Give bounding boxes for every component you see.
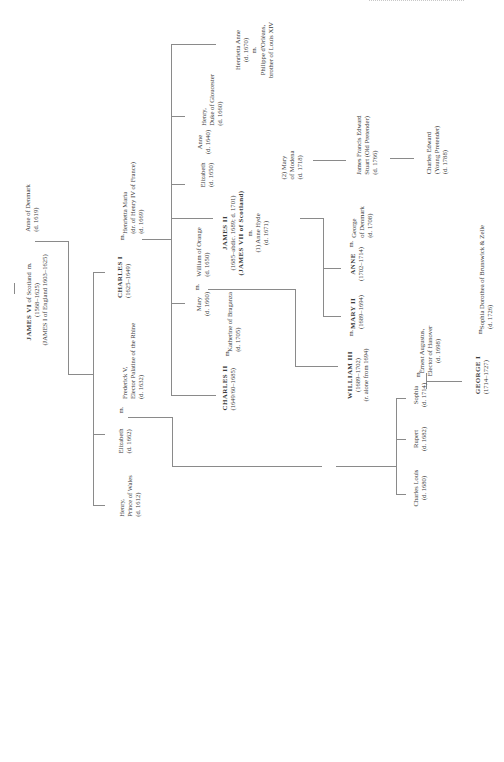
connector — [295, 289, 296, 366]
connector — [295, 366, 338, 367]
connector — [171, 44, 172, 396]
marriage-symbol: m. — [347, 330, 355, 337]
connector — [396, 494, 406, 495]
person-henry-duke-of-gloucester: Henry, Duke of Gloucester (d. 1660) — [200, 74, 225, 126]
person-james-ii: JAMES II (1685–abdic. 1689; d. 1701) (JA… — [221, 190, 270, 275]
marriage-symbol: m. — [25, 263, 33, 270]
connector — [323, 316, 341, 317]
person-mary-ii: MARY II (1689–1694) — [349, 295, 365, 329]
person-william-iii: WILLIAM III (1689–1702) (r. alone from 1… — [346, 348, 371, 401]
connector — [128, 417, 172, 418]
connector — [93, 272, 105, 273]
person-anne-of-denmark: Anne of Denmark (d. 1619) — [24, 184, 40, 232]
connector — [323, 268, 341, 269]
person-mary-1660: Mary (d. 1660) — [195, 292, 211, 316]
connector — [171, 395, 216, 396]
person-sophia-dorothea: Sophia Dorothea of Brunswick & Zelle (d.… — [478, 225, 494, 329]
person-james-vi: JAMES VI of Scotlandm. (1568–1625) (JAME… — [25, 254, 50, 345]
person-katherine-of-braganza: Katherine of Braganza (d. 1705) — [226, 292, 242, 352]
cropped-header-remnant — [369, 0, 464, 4]
person-elizabeth-1650: Elizabeth (d. 1650) — [199, 163, 215, 188]
person-philippe-d-orleans: Philippe d'Orléans, — [259, 22, 267, 78]
person-sophia: Sophia (d. 1714) — [412, 383, 428, 407]
person-anne-1640: Anne (d. 1640) — [196, 130, 212, 154]
connector — [93, 505, 105, 506]
person-charles-ii: CHARLES II (1649/60–1685) — [221, 365, 237, 410]
connector — [172, 417, 173, 466]
person-george-of-denmark: George of Denmark (d. 1708) — [350, 206, 375, 238]
connector — [68, 374, 93, 375]
connector — [426, 381, 462, 382]
person-henrietta-anne: Henrietta Anne (d. 1670) m. Philippe d'O… — [234, 22, 275, 78]
connector — [300, 218, 324, 219]
connector — [142, 239, 172, 240]
connector — [68, 241, 69, 374]
marriage-symbol: m. — [118, 234, 126, 241]
connector — [390, 158, 414, 159]
connector — [171, 44, 216, 45]
person-james-francis-edward: James Francis Edward Stuart (Old Pretend… — [355, 115, 380, 174]
person-henrietta-maria: Henrietta Maria (dr. of Henry IV of Fran… — [121, 162, 146, 234]
marriage-symbol: m. — [117, 407, 125, 414]
connector — [396, 398, 397, 494]
connector — [208, 289, 295, 290]
marriage-symbol: m. — [193, 284, 201, 291]
person-charles-edward: Charles Edward (Young Pretender) (d. 178… — [425, 126, 450, 175]
person-charles-louis: Charles Louis (d. 1680) — [412, 470, 428, 507]
connector — [93, 272, 94, 505]
marriage-symbol: m. — [251, 22, 259, 78]
connector — [14, 283, 15, 294]
person-henry-prince-of-wales: Henry, Prince of Wales (d. 1612) — [118, 475, 143, 516]
person-anne-hyde: (1) Anne Hyde — [254, 190, 262, 275]
connector — [35, 241, 69, 242]
person-frederick-v: Frederick V, Elector Palatine of the Rhi… — [121, 323, 146, 399]
person-anne-queen: ANNE (1702–1714) — [349, 247, 365, 281]
person-ernest-augustus: Ernest Augustus, Elector of Hanover (d. … — [418, 326, 443, 377]
connector — [313, 160, 346, 161]
connector — [171, 303, 185, 304]
person-elizabeth-1662: Elizabeth (d. 1662) — [117, 429, 133, 454]
person-rupert: Rupert (d. 1682) — [412, 427, 428, 451]
person-charles-i: CHARLES I (1625–1649) — [116, 256, 132, 298]
connector — [171, 184, 185, 185]
marriage-symbol: m. — [347, 241, 355, 248]
connector — [171, 116, 185, 117]
connector — [336, 466, 396, 467]
connector — [171, 218, 213, 219]
connector — [323, 218, 324, 316]
person-george-i: GEORGE I (1714–1727) — [474, 356, 490, 394]
marriage-symbol: m. — [246, 190, 254, 275]
connector — [396, 439, 406, 440]
connector — [396, 398, 406, 399]
person-mary-of-modena: (2) Mary of Modena (d. 1718) — [280, 151, 305, 180]
connector — [172, 466, 322, 467]
connector — [93, 434, 105, 435]
person-william-of-orange: William of Orange (d. 1650) — [195, 227, 211, 277]
